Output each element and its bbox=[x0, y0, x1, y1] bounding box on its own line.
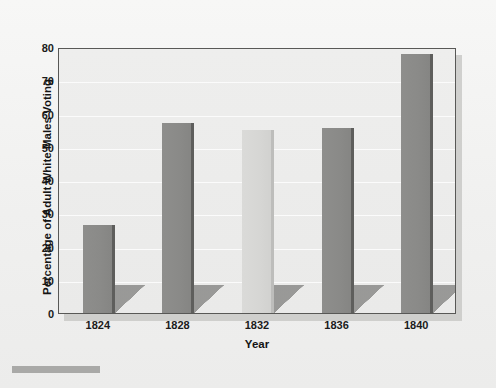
bar-group bbox=[322, 128, 354, 313]
bar-1836 bbox=[322, 128, 354, 313]
bar-face bbox=[242, 130, 274, 313]
bar-group bbox=[242, 130, 274, 313]
bar-shadow bbox=[274, 285, 304, 313]
gridline bbox=[59, 82, 455, 83]
bar-shadow bbox=[194, 285, 224, 313]
x-tick-label: 1840 bbox=[386, 320, 446, 331]
bar-group bbox=[401, 54, 433, 313]
bar-1828 bbox=[162, 123, 194, 313]
footer-rule bbox=[12, 366, 100, 373]
x-tick-label: 1824 bbox=[68, 320, 128, 331]
bar-1840 bbox=[401, 54, 433, 313]
bar-1832 bbox=[242, 130, 274, 313]
plot-frame bbox=[58, 48, 456, 314]
bar-shadow bbox=[433, 285, 455, 313]
bar-group bbox=[162, 123, 194, 313]
bar-side-edge bbox=[351, 128, 354, 313]
bar-face bbox=[83, 225, 115, 313]
plot-area bbox=[59, 49, 455, 313]
x-axis-title: Year bbox=[58, 338, 456, 350]
bar-shadow bbox=[115, 285, 145, 313]
x-tick-label: 1832 bbox=[227, 320, 287, 331]
bar-shadow bbox=[354, 285, 384, 313]
x-tick-label: 1836 bbox=[307, 320, 367, 331]
bar-face bbox=[401, 54, 433, 313]
gridline bbox=[59, 116, 455, 117]
y-tick-label: 80 bbox=[28, 43, 54, 54]
bar-chart-figure: 01020304050607080 18241828183218361840 Y… bbox=[0, 0, 496, 355]
x-axis-tick-labels: 18241828183218361840 bbox=[58, 320, 456, 336]
bar-face bbox=[322, 128, 354, 313]
bar-face bbox=[162, 123, 194, 313]
bar-side-edge bbox=[430, 54, 433, 313]
y-axis-title: Percentage of Adult White Males Voting bbox=[41, 54, 53, 320]
bar-1824 bbox=[83, 225, 115, 313]
bar-side-edge bbox=[112, 225, 115, 313]
bar-side-edge bbox=[191, 123, 194, 313]
x-tick-label: 1828 bbox=[147, 320, 207, 331]
bar-group bbox=[83, 225, 115, 313]
bar-side-edge bbox=[271, 130, 274, 313]
